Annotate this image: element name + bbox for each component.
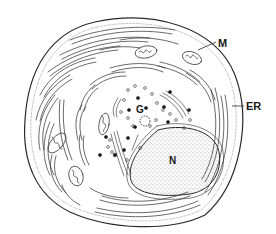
- mitochondrion: [181, 49, 204, 67]
- label-er: ER: [246, 100, 261, 112]
- cell-membrane: [25, 18, 243, 227]
- label-nucleus: N: [169, 155, 176, 166]
- mitochondrion: [67, 165, 86, 188]
- label-mitochondrion: M: [218, 37, 227, 49]
- leader-line-m: [198, 42, 216, 50]
- cell-diagram: M ER G N: [0, 0, 276, 234]
- golgi-ring: [140, 116, 150, 126]
- label-golgi: G: [136, 104, 144, 115]
- mitochondrion: [134, 44, 158, 60]
- mitochondrion: [97, 112, 111, 135]
